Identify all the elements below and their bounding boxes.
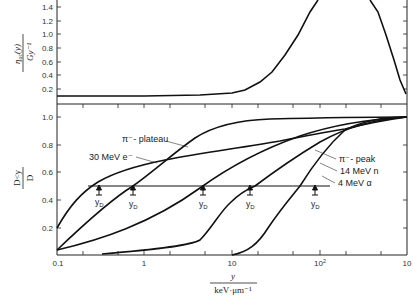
annotation-pion-peak: π⁻- peak — [339, 154, 376, 164]
bottom-y-tick-labels: 1.0 0.8 0.6 0.4 0.2 — [42, 113, 54, 233]
tick-label: 0.4 — [42, 71, 54, 80]
tick-label: 1.2 — [42, 17, 54, 26]
yd-label: yD — [129, 199, 138, 210]
x-tick-labels: 0.1 1 10 102 10 — [52, 258, 412, 268]
eta-argument: (y) — [12, 44, 22, 54]
leader-line — [136, 157, 157, 163]
tick-label: 1.4 — [42, 3, 54, 12]
tick-label: 1.0 — [42, 113, 54, 122]
x-label-symbol: y — [230, 271, 235, 281]
yd-label: yD — [95, 197, 104, 208]
bottom-y-label: D<y D — [12, 167, 35, 189]
leader-line — [166, 141, 188, 147]
tick-label: 1 — [142, 259, 147, 268]
efficiency-curve — [57, 0, 406, 96]
annotation-14mev-neutron: 14 MeV n — [340, 166, 379, 176]
annotation-30mev-electron: 30 MeV e⁻ — [89, 152, 133, 162]
tick-label: 0.8 — [42, 44, 54, 53]
top-y-ticks — [57, 7, 407, 89]
yd-label: yD — [311, 199, 320, 210]
divider-ticks — [83, 104, 381, 108]
top-panel: 0.2 0.4 0.6 0.8 1.0 1.2 1.4 ηac(y) Gy⁻¹ — [12, 0, 407, 104]
chart-figure: 0.2 0.4 0.6 0.8 1.0 1.2 1.4 ηac(y) Gy⁻¹ — [0, 0, 413, 300]
top-y-label: ηac(y) Gy⁻¹ — [12, 34, 35, 72]
annotation-4mev-alpha: 4 MeV α — [338, 178, 372, 188]
yd-label: yD — [246, 199, 255, 210]
leader-line — [322, 176, 335, 183]
tick-label: 0.8 — [42, 141, 54, 150]
tick-label: 0.2 — [42, 85, 54, 94]
tick-label: 0.2 — [42, 224, 54, 233]
tick-label: 0.6 — [42, 168, 54, 177]
x-label-unit: keV·μm⁻¹ — [214, 285, 252, 295]
bottom-panel: 1.0 0.8 0.6 0.4 0.2 0.1 1 10 102 10 — [12, 104, 412, 295]
tick-label: 102 — [314, 258, 326, 268]
tick-label: 10 — [228, 259, 237, 268]
top-y-tick-labels: 0.2 0.4 0.6 0.8 1.0 1.2 1.4 — [42, 3, 54, 94]
yd-label: yD — [199, 199, 208, 210]
bottom-y-label-den: D — [25, 174, 35, 181]
x-label: y keV·μm⁻¹ — [210, 271, 257, 295]
tick-label: 0.6 — [42, 58, 54, 67]
leader-line — [320, 163, 337, 171]
top-y-label-unit: Gy⁻¹ — [25, 43, 35, 61]
bottom-y-label-num: D<y — [12, 169, 22, 186]
tick-label: 0.1 — [52, 259, 64, 268]
tick-label: 0.4 — [42, 196, 54, 205]
curve-annotations: π⁻- plateau 30 MeV e⁻ π⁻- peak 14 MeV n … — [89, 134, 379, 188]
annotation-pion-plateau: π⁻- plateau — [122, 134, 168, 144]
svg-text:ηac(y): ηac(y) — [12, 44, 23, 64]
tick-label: 10 — [403, 259, 412, 268]
tick-label: 1.0 — [42, 30, 54, 39]
